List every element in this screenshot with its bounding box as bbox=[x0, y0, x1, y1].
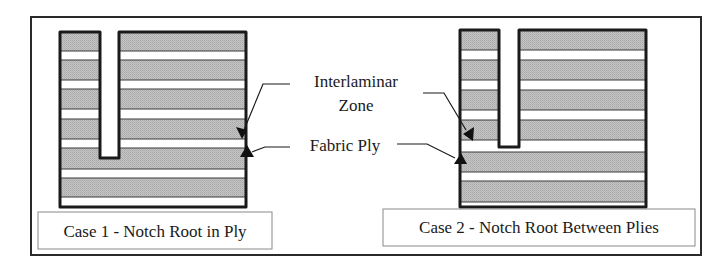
ply bbox=[60, 119, 246, 139]
interlaminar-zone bbox=[460, 172, 646, 181]
ply bbox=[460, 90, 646, 110]
interlaminar-zone bbox=[60, 169, 246, 178]
interlaminar-zone bbox=[60, 139, 246, 148]
interlaminar-zone bbox=[60, 51, 246, 60]
interlaminar-zone bbox=[460, 140, 646, 152]
interlaminar-zone bbox=[460, 80, 646, 90]
case1-caption: Case 1 - Notch Root in Ply bbox=[63, 222, 247, 241]
fabric-ply-label: Fabric Ply bbox=[310, 136, 381, 155]
ply bbox=[460, 60, 646, 80]
interlaminar-zone bbox=[60, 109, 246, 119]
interlaminar-zone bbox=[460, 110, 646, 120]
ply bbox=[460, 120, 646, 140]
case2-caption-box: Case 2 - Notch Root Between Plies bbox=[383, 209, 695, 246]
interlaminar-zone bbox=[460, 50, 646, 60]
notch-root-diagram: Case 1 - Notch Root in Ply Case 2 - Notc… bbox=[0, 0, 728, 275]
interlaminar-zone-label-line2: Zone bbox=[339, 96, 374, 115]
interlaminar-zone-label-line1: Interlaminar bbox=[314, 72, 398, 91]
notch bbox=[500, 27, 518, 147]
interlaminar-zone bbox=[60, 80, 246, 89]
notch bbox=[101, 29, 118, 158]
ply bbox=[60, 89, 246, 109]
ply bbox=[60, 178, 246, 197]
case2-specimen bbox=[460, 27, 646, 207]
ply bbox=[60, 32, 246, 51]
ply bbox=[460, 152, 646, 172]
case1-specimen bbox=[60, 29, 246, 207]
ply bbox=[60, 60, 246, 80]
ply bbox=[460, 181, 646, 202]
case1-caption-box: Case 1 - Notch Root in Ply bbox=[38, 212, 272, 249]
ply bbox=[460, 30, 646, 50]
ply bbox=[60, 148, 246, 169]
case2-caption: Case 2 - Notch Root Between Plies bbox=[419, 218, 659, 237]
